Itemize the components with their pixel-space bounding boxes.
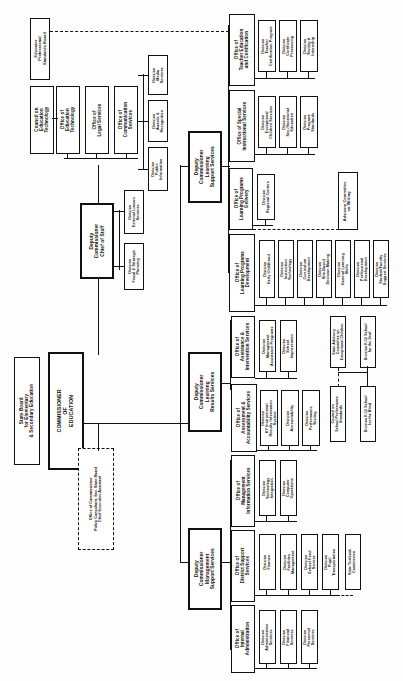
node-division-certificate-processing[interactable]: DivisionCertificateProcessing (279, 20, 297, 72)
node-office-legal-services[interactable]: Office ofLegal Services (85, 86, 109, 154)
node-division-accountability[interactable]: DivisionAccountability (281, 390, 299, 446)
node-division-school-food[interactable]: DivisionSchool FoodService (301, 534, 318, 590)
node-division-external-liaison[interactable]: DivisionExternal LiaisonServices (124, 190, 144, 234)
node-office-learning-delivery[interactable]: Office ofLearning ProgramsDelivery (229, 168, 253, 230)
node-division-management-assistance[interactable]: DivisionManagementAssistance Programs (259, 320, 276, 372)
node-office-education-technology[interactable]: Office ofEducationTechnology (56, 86, 80, 154)
node-educator-professional-standards-board[interactable]: EducatorProfessionalStandards Board (30, 18, 50, 80)
node-state-textbook-commission[interactable]: State TextbookCommission (345, 534, 361, 590)
line-internal-bus (255, 668, 317, 669)
node-council-education-technology[interactable]: Council onEducationTechnology (30, 86, 54, 154)
node-division-pupil-transportation[interactable]: DivisionPupilTransportation (322, 534, 339, 590)
node-division-media-services[interactable]: DivisionMediaServices (148, 55, 168, 95)
node-division-curriculum-development[interactable]: DivisionCurriculumDevelopment (297, 240, 313, 298)
node-division-ky-instructional-results-label: DivisionKY InstructionalResults Informat… (261, 400, 278, 437)
node-commissioner-label: COMMISSIONEROFEDUCATION (57, 389, 75, 432)
node-division-technology-integration-label: DivisionTechnologyIntegration (261, 477, 273, 498)
node-council-school-performance[interactable]: Council onSchool PerformanceStandards (330, 386, 346, 442)
line-it-drop (285, 298, 286, 306)
line-comm-to-public-info (138, 169, 149, 170)
line-assistance-bus (255, 378, 297, 379)
line-sb-drop (323, 298, 324, 306)
node-division-regional-centers-label: DivisionRegional Centers (262, 181, 270, 213)
node-division-k12-school-deaf[interactable]: Division K-12 Schoolfor the Deaf (360, 316, 376, 368)
node-office-communication-services[interactable]: Office ofCommunicationServices (114, 86, 138, 154)
node-office-special-instructional-label: Office of SpecialInstructional Services (237, 102, 247, 151)
node-division-financial-services-label: DivisionFinancialServices (282, 629, 294, 646)
node-office-learning-development[interactable]: Office ofLearning ProgramsDevelopment (229, 234, 255, 312)
line-council-to-office-edtech (52, 118, 58, 119)
node-division-early-childhood[interactable]: DivisionEarly Childhood (259, 240, 275, 298)
node-division-personnel-services[interactable]: DivisionPersonnelServices (301, 610, 318, 664)
node-division-general-learning[interactable]: DivisionGeneral LearningSkills (335, 240, 351, 298)
line-admin-drop (266, 664, 267, 669)
node-division-instruction-technology-label: DivisionInstructionTechnology (280, 258, 292, 279)
node-division-external-liaison-label: DivisionExternal LiaisonServices (128, 197, 140, 227)
node-division-computer-operations[interactable]: DivisionComputerOperations (280, 460, 297, 516)
node-division-awards-recognition[interactable]: DivisionAwards &Recognition (148, 100, 168, 142)
line-ma-drop (266, 372, 267, 379)
node-deputy-learning-support-label: DeputyCommissionerLearningSupport Servic… (194, 146, 215, 187)
node-division-site-based[interactable]: DivisionSite-BasedDecision Making (316, 240, 332, 298)
node-division-program-standards[interactable]: DivisionProgramStandards (300, 96, 318, 148)
node-deputy-learning-results[interactable]: DeputyCommissionerLearningResults Servic… (188, 352, 222, 432)
node-division-regional-centers[interactable]: DivisionRegional Centers (257, 174, 275, 220)
node-deputy-learning-support[interactable]: DeputyCommissionerLearningSupport Servic… (188, 131, 222, 203)
node-division-administrative-services[interactable]: DivisionAdministrativeServices (259, 610, 276, 664)
line-comm-to-media (138, 75, 149, 76)
node-division-exceptional-children[interactable]: DivisionExceptionalChildren Services (258, 96, 276, 148)
node-state-textbook-commission-label: State TextbookCommission (349, 549, 357, 575)
node-office-assessment-accountability[interactable]: Office ofAssessment &Accountability Serv… (231, 384, 257, 452)
node-state-advisory-council[interactable]: State AdvisoryCommittee onExceptional Ch… (330, 316, 346, 368)
node-office-district-support-label: Office ofDistrict SupportServices (235, 548, 250, 584)
node-division-pupil-transportation-label: DivisionPupilTransportation (324, 548, 336, 575)
node-division-fiscal-strategic[interactable]: DivisionFiscal & StrategicPlanning (124, 243, 144, 290)
node-office-management-information-label: Office ofManagementInformation Services (235, 468, 250, 515)
node-office-special-instructional[interactable]: Office of SpecialInstructional Services (229, 90, 255, 162)
node-office-management-information[interactable]: Office ofManagementInformation Services (231, 455, 255, 527)
node-division-technology-integration[interactable]: DivisionTechnologyIntegration (259, 460, 276, 516)
node-council-education-technology-label: Council onEducationTechnology (34, 107, 49, 133)
node-division-fiscal-strategic-label: DivisionFiscal & StrategicPlanning (128, 250, 140, 283)
node-division-testing-internship-label: DivisionTesting &Internship (303, 37, 315, 56)
node-division-student-faculty-support[interactable]: DivisionStudent/FacultySupport Services (373, 240, 389, 298)
node-deputy-chief-of-staff[interactable]: DeputyCommissionerChief of Staff (80, 203, 114, 279)
node-office-district-support[interactable]: Office ofDistrict SupportServices (231, 530, 255, 602)
node-division-performance-testing[interactable]: DivisionPerformanceTesting (302, 390, 320, 446)
node-division-k12-school-deaf-label: Division K-12 Schoolfor the Deaf (364, 324, 372, 361)
node-division-finance[interactable]: DivisionFinance (259, 534, 276, 590)
node-division-facilities-management[interactable]: DivisionFacilitiesManagement (280, 534, 297, 590)
line-chief-to-external (114, 211, 125, 212)
node-division-facilities-management-label: DivisionFacilitiesManagement (282, 550, 294, 574)
node-deputy-learning-results-label: DeputyCommissionerLearningResults Servic… (194, 372, 215, 412)
node-office-internal-administration[interactable]: Office ofInternalAdministration (231, 605, 255, 673)
line-sfs-drop (380, 298, 381, 306)
node-division-testing-internship[interactable]: DivisionTesting &Internship (300, 20, 318, 72)
node-office-of-commissioner[interactable]: Office of CommissionerPolicy Consultant,… (78, 448, 114, 550)
node-state-board-label: State Boardfor Elementary& Secondary Edu… (19, 384, 34, 438)
line-si-drop (288, 372, 289, 379)
node-office-assistance-intervention[interactable]: Office ofAssistance &Intervention Servic… (231, 316, 255, 378)
node-division-financial-services[interactable]: DivisionFinancialServices (280, 610, 297, 664)
node-division-teacher-cert-program[interactable]: DivisionTeacherCertification Program (258, 20, 276, 72)
node-office-teacher-education[interactable]: Office ofTeacher Educationand Certificat… (229, 14, 255, 86)
line-comm-drop (126, 154, 127, 159)
line-pd-drop (361, 298, 362, 306)
line-regional-drop (265, 220, 266, 226)
node-division-public-information[interactable]: DivisionPublicInformation (148, 147, 168, 191)
line-ec-drop (266, 298, 267, 306)
node-division-student-faculty-support-label: DivisionStudent/FacultySupport Services (375, 253, 387, 285)
node-advisory-committee-writing[interactable]: Advisory Committeeon Writing (338, 172, 358, 230)
line-progstd-drop (308, 148, 309, 155)
node-division-k12-school-blind[interactable]: Division K-12 Schoolfor the Blind (360, 386, 376, 442)
node-division-ky-instructional-results[interactable]: DivisionKY InstructionalResults Informat… (260, 390, 278, 446)
node-deputy-management-support[interactable]: DeputyCommissionerManagementSupport Serv… (188, 528, 222, 610)
node-division-sec-vocational[interactable]: DivisionSec./VocationalEducation (279, 96, 297, 148)
node-state-board[interactable]: State Boardfor Elementary& Secondary Edu… (14, 357, 40, 465)
node-division-school-improvement[interactable]: DivisionSchoolImprovement (280, 320, 297, 372)
org-chart-canvas: State Boardfor Elementary& Secondary Edu… (0, 0, 403, 681)
node-division-awards-recognition-label: DivisionAwards &Recognition (152, 110, 164, 132)
node-division-professional-development[interactable]: DivisionProfessionalDevelopment (354, 240, 370, 298)
node-division-instruction-technology[interactable]: DivisionInstructionTechnology (278, 240, 294, 298)
node-advisory-committee-writing-label: Advisory Committeeon Writing (344, 181, 353, 221)
